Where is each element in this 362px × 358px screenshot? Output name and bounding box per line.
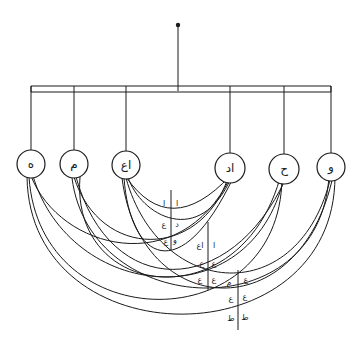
cell: ا: [213, 241, 215, 250]
cell: اع: [197, 241, 204, 250]
node-label: اع: [121, 158, 132, 172]
node-1: ه: [17, 150, 45, 178]
cell: ع: [243, 292, 248, 301]
diagram-canvas: ا ا ع د ع و اع ا ع ع ع ع ع م ع ع ط ط ه م…: [0, 0, 362, 358]
cell: ع: [212, 259, 217, 268]
node-6: و: [317, 153, 345, 181]
node-label: اد: [226, 161, 235, 175]
cell: ا: [163, 199, 165, 208]
cell: ا: [176, 199, 178, 208]
cell: ط: [227, 314, 234, 323]
connecting-arcs: [27, 176, 335, 314]
node-5: ح: [269, 154, 299, 184]
cell: ع: [162, 220, 167, 229]
cell: ع: [198, 275, 203, 284]
cell: ع: [229, 294, 234, 303]
cell: ع: [200, 259, 205, 268]
node-3: اع: [112, 151, 140, 179]
node-2: م: [60, 150, 88, 178]
node-label: م: [70, 157, 77, 171]
node-label: و: [327, 160, 334, 175]
cell: م: [227, 278, 232, 287]
cell: ع: [244, 275, 249, 284]
cell: د: [175, 220, 179, 229]
node-label: ح: [280, 162, 288, 176]
diagram: ا ا ع د ع و اع ا ع ع ع ع ع م ع ع ط ط ه م…: [0, 0, 362, 358]
node-label: ه: [28, 157, 34, 171]
node-4: اد: [215, 153, 245, 183]
cell: و: [172, 236, 177, 245]
cell: ع: [164, 237, 169, 246]
cell: ط: [241, 313, 248, 322]
cell: ع: [212, 275, 217, 284]
